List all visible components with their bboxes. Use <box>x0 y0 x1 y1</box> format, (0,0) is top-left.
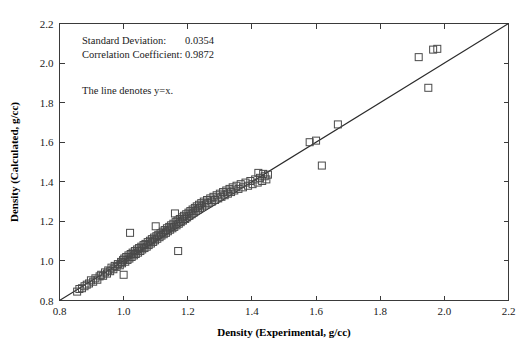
y-axis-title: Density (Calculated, g/cc) <box>8 102 21 222</box>
x-tick-label: 1.2 <box>181 305 195 317</box>
data-point-marker <box>415 54 422 61</box>
data-point-marker <box>175 248 182 255</box>
x-tick-label: 1.8 <box>373 305 387 317</box>
y-axis: 0.81.01.21.41.61.82.02.2 <box>40 18 509 307</box>
x-tick-label: 0.8 <box>53 305 67 317</box>
y-tick-label: 1.8 <box>40 97 54 109</box>
x-tick-label: 2.0 <box>437 305 451 317</box>
scatter-plot-figure: 0.81.01.21.41.61.82.02.20.81.01.21.41.61… <box>0 0 527 355</box>
y-tick-label: 2.2 <box>40 18 54 30</box>
corr-coef-value: 0.9872 <box>185 49 214 60</box>
x-tick-label: 1.0 <box>117 305 131 317</box>
data-point-marker <box>127 229 134 236</box>
y-tick-label: 1.2 <box>40 215 54 227</box>
y-tick-label: 1.4 <box>40 176 54 188</box>
std-dev-label: Standard Deviation: <box>82 35 166 46</box>
chart-canvas: 0.81.01.21.41.61.82.02.20.81.01.21.41.61… <box>0 0 527 355</box>
line-note: The line denotes y=x. <box>82 85 173 96</box>
x-tick-label: 1.6 <box>309 305 323 317</box>
y-tick-label: 1.6 <box>40 136 54 148</box>
data-point-marker <box>318 162 325 169</box>
x-axis-title: Density (Experimental, g/cc) <box>217 326 351 339</box>
y-tick-label: 2.0 <box>40 57 54 69</box>
data-point-marker <box>425 84 432 91</box>
data-points <box>74 45 441 295</box>
data-point-marker <box>152 223 159 230</box>
x-tick-label: 1.4 <box>245 305 259 317</box>
x-axis: 0.81.01.21.41.61.82.02.2 <box>53 24 516 317</box>
y-tick-label: 0.8 <box>40 295 54 307</box>
y-tick-label: 1.0 <box>40 255 54 267</box>
corr-coef-label: Correlation Coefficient: <box>82 49 182 60</box>
annotations-block: Standard Deviation:0.0354Correlation Coe… <box>82 35 215 96</box>
std-dev-value: 0.0354 <box>185 35 215 46</box>
data-point-marker <box>120 271 127 278</box>
x-tick-label: 2.2 <box>502 305 516 317</box>
